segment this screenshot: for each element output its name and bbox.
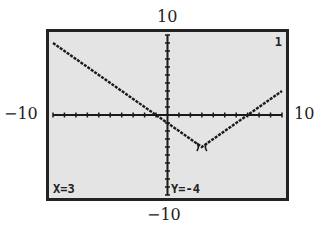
trace-x-value: X=3 [53, 183, 75, 195]
ymin-label: −10 [147, 207, 181, 223]
xmax-label: 10 [294, 106, 314, 122]
xmin-label: −10 [4, 106, 38, 122]
trace-y-value: Y=-4 [171, 183, 200, 195]
graph-plot [49, 32, 286, 198]
graph-number: 1 [275, 36, 282, 48]
ymax-label: 10 [157, 9, 177, 25]
calculator-screen: 1 X=3 Y=-4 [46, 29, 289, 201]
